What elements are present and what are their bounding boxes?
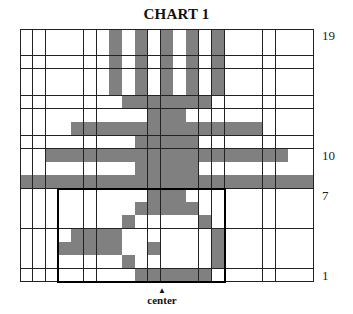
grid-cell xyxy=(148,175,161,189)
grid-cell xyxy=(237,242,250,256)
grid-cell xyxy=(276,42,289,56)
grid-cell xyxy=(109,82,122,96)
grid-cell xyxy=(250,122,263,136)
grid-cell xyxy=(109,149,122,163)
grid-cell xyxy=(97,69,110,83)
grid-cell xyxy=(186,202,199,216)
grid-cell xyxy=(276,215,289,229)
grid-cell xyxy=(199,149,212,163)
grid-cell xyxy=(97,29,110,43)
grid-cell xyxy=(161,269,174,283)
grid-cell xyxy=(20,255,33,269)
grid-cell xyxy=(135,69,148,83)
grid-cell xyxy=(135,202,148,216)
grid-cell xyxy=(58,229,71,243)
grid-cell xyxy=(109,42,122,56)
grid-cell xyxy=(20,215,33,229)
grid-cell xyxy=(250,69,263,83)
grid-cell xyxy=(212,109,225,123)
grid-cell xyxy=(84,189,97,203)
grid-cell xyxy=(84,136,97,150)
grid-cell xyxy=(20,56,33,70)
grid-cell xyxy=(46,122,59,136)
grid-cell xyxy=(122,29,135,43)
grid-cell xyxy=(20,109,33,123)
grid-cell xyxy=(199,136,212,150)
grid-cell xyxy=(20,96,33,110)
grid-cell xyxy=(186,96,199,110)
grid-cell xyxy=(109,109,122,123)
grid-cell xyxy=(288,109,301,123)
grid-cell xyxy=(199,96,212,110)
grid-cell xyxy=(186,122,199,136)
grid-cell xyxy=(301,215,314,229)
grid-cell xyxy=(237,82,250,96)
grid-cell xyxy=(97,82,110,96)
grid-cell xyxy=(71,189,84,203)
grid-cell xyxy=(186,255,199,269)
grid-cell xyxy=(276,189,289,203)
grid-cell xyxy=(33,136,46,150)
row-label-10: 10 xyxy=(322,149,335,163)
grid-cell xyxy=(288,255,301,269)
grid-cell xyxy=(288,189,301,203)
grid-cell xyxy=(135,42,148,56)
grid-cell xyxy=(71,42,84,56)
grid-cell xyxy=(237,189,250,203)
grid-cell xyxy=(301,229,314,243)
grid-cell xyxy=(97,162,110,176)
grid-cell xyxy=(301,162,314,176)
grid-cell xyxy=(212,215,225,229)
grid-cell xyxy=(148,215,161,229)
grid-cell xyxy=(161,96,174,110)
grid-cell xyxy=(225,242,238,256)
grid-cell xyxy=(161,122,174,136)
grid-cell xyxy=(135,82,148,96)
grid-cell xyxy=(97,189,110,203)
grid-cell xyxy=(20,69,33,83)
grid-cell xyxy=(237,175,250,189)
grid-cell xyxy=(97,202,110,216)
grid-cell xyxy=(212,269,225,283)
grid-cell xyxy=(33,175,46,189)
grid-cell xyxy=(173,242,186,256)
grid-cell xyxy=(276,255,289,269)
grid-cell xyxy=(71,255,84,269)
grid-cell xyxy=(20,136,33,150)
grid-cell xyxy=(276,82,289,96)
grid-cell xyxy=(212,175,225,189)
grid-cell xyxy=(173,69,186,83)
grid-cell xyxy=(122,215,135,229)
grid-cell xyxy=(161,42,174,56)
grid-cell xyxy=(173,255,186,269)
grid-cell xyxy=(33,69,46,83)
grid-cell xyxy=(84,269,97,283)
grid-cell xyxy=(97,255,110,269)
grid-cell xyxy=(250,109,263,123)
grid-cell xyxy=(288,242,301,256)
grid-cell xyxy=(250,255,263,269)
grid-cell xyxy=(199,175,212,189)
grid-cell xyxy=(97,136,110,150)
grid-cell xyxy=(58,162,71,176)
grid-cell xyxy=(135,56,148,70)
grid-cell xyxy=(237,149,250,163)
grid-cell xyxy=(46,269,59,283)
grid-cell xyxy=(186,149,199,163)
grid-cell xyxy=(237,69,250,83)
grid-cell xyxy=(84,82,97,96)
grid-cell xyxy=(186,162,199,176)
grid-cell xyxy=(33,229,46,243)
grid-cell xyxy=(20,229,33,243)
grid-cell xyxy=(199,29,212,43)
grid-cell xyxy=(161,215,174,229)
grid-cell xyxy=(173,149,186,163)
grid-cell xyxy=(276,56,289,70)
grid-cell xyxy=(122,136,135,150)
grid-cell xyxy=(199,162,212,176)
grid-cell xyxy=(122,109,135,123)
grid-cell xyxy=(46,189,59,203)
grid-cell xyxy=(109,29,122,43)
grid-cell xyxy=(173,109,186,123)
grid-cell xyxy=(33,202,46,216)
